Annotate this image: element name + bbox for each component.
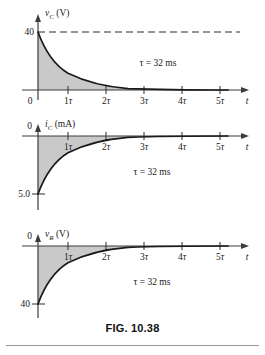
vc-axis-label: vC (V)	[45, 8, 69, 21]
vr-tick-label-3tau: 3τ	[140, 252, 149, 262]
vc-tick-label-0: 0	[28, 96, 33, 106]
vc-tick-label-3tau: 3τ	[140, 96, 149, 106]
ic-time-axis-label: t	[246, 142, 249, 152]
vc-tau-annotation: τ = 32 ms	[140, 58, 177, 68]
chart-vc: vC (V) 40 0 1τ 2τ 3τ 4τ 5τ t τ = 32 ms	[0, 4, 265, 108]
ic-y-axis-arrowhead	[35, 124, 41, 132]
vr-tick-label-5tau: 5τ	[216, 252, 225, 262]
vr-tick-label-2tau: 2τ	[102, 252, 111, 262]
ic-axis-label: iC (mA)	[45, 119, 75, 132]
ic-origin-label: 0	[27, 121, 32, 131]
chart-ic: iC (mA) 0 5.0 1τ 2τ 3τ 4τ 5τ t τ = 32 ms	[0, 118, 265, 218]
figure-caption-bar: FIG. 10.38	[0, 318, 265, 338]
figure-caption: FIG. 10.38	[106, 322, 160, 334]
vc-time-axis-label: t	[246, 96, 249, 106]
vr-origin-label: 0	[27, 231, 32, 241]
vr-time-axis-label: t	[246, 252, 249, 262]
ic-tick-label-5tau: 5τ	[216, 142, 225, 152]
vr-axis-label: vR (V)	[45, 229, 69, 242]
vc-x-axis-arrowhead	[241, 87, 249, 93]
ic-tick-label-3tau: 3τ	[140, 142, 149, 152]
ic-peak-value-label: 5.0	[18, 189, 30, 199]
vr-x-axis-arrowhead	[241, 243, 249, 249]
vc-tick-label-2tau: 2τ	[102, 96, 111, 106]
vr-tau-annotation: τ = 32 ms	[134, 277, 171, 287]
vc-tick-label-4tau: 4τ	[178, 96, 187, 106]
footer-divider	[6, 345, 259, 346]
vr-tick-label-4tau: 4τ	[178, 252, 187, 262]
ic-tick-label-1tau: 1τ	[64, 142, 73, 152]
ic-tau-annotation: τ = 32 ms	[134, 167, 171, 177]
vc-tick-label-1tau: 1τ	[64, 96, 73, 106]
vc-tick-label-5tau: 5τ	[216, 96, 225, 106]
vc-y-axis-arrowhead	[35, 14, 41, 22]
ic-x-axis-arrowhead	[241, 133, 249, 139]
vr-y-axis-arrowhead	[35, 234, 41, 242]
ic-tick-label-2tau: 2τ	[102, 142, 111, 152]
vc-shaded-area	[38, 32, 228, 90]
figure-container: vC (V) 40 0 1τ 2τ 3τ 4τ 5τ t τ = 32 ms	[0, 0, 265, 355]
vc-peak-value-label: 40	[25, 27, 35, 37]
vr-tick-label-1tau: 1τ	[64, 252, 73, 262]
vr-peak-value-label: 40	[21, 299, 31, 309]
ic-tick-label-4tau: 4τ	[178, 142, 187, 152]
chart-vr: vR (V) 0 40 1τ 2τ 3τ 4τ 5τ t τ = 32 ms	[0, 228, 265, 324]
